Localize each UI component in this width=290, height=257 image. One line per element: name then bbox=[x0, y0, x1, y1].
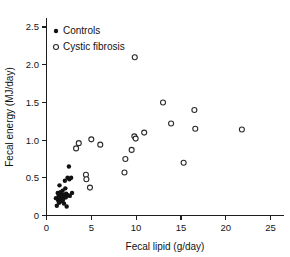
y-tick-label: 0 bbox=[34, 210, 39, 221]
data-point bbox=[129, 147, 134, 152]
x-axis-ticks: 0510152025 bbox=[44, 216, 276, 233]
data-point bbox=[57, 183, 61, 187]
data-point bbox=[181, 160, 186, 165]
y-tick-label: 0.5 bbox=[26, 172, 39, 183]
data-point bbox=[123, 156, 128, 161]
legend-marker-filled-circle-icon bbox=[54, 29, 58, 33]
series-cystic-fibrosis-points bbox=[74, 55, 245, 190]
y-axis-title: Fecal energy (MJ/day) bbox=[4, 67, 15, 166]
data-point bbox=[69, 176, 73, 180]
y-axis-ticks: 00.51.01.52.02.5 bbox=[26, 21, 47, 220]
legend-item-label: Controls bbox=[63, 25, 100, 36]
data-point bbox=[193, 126, 198, 131]
x-tick-label: 10 bbox=[131, 222, 142, 233]
x-tick-label: 15 bbox=[176, 222, 187, 233]
y-tick-label: 2.0 bbox=[26, 59, 39, 70]
data-point bbox=[122, 170, 127, 175]
data-point bbox=[192, 107, 197, 112]
data-point bbox=[64, 204, 68, 208]
data-point bbox=[70, 191, 74, 195]
data-point bbox=[74, 146, 79, 151]
data-point bbox=[239, 127, 244, 132]
data-point bbox=[161, 100, 166, 105]
data-point bbox=[63, 186, 67, 190]
legend-item-label: Cystic fibrosis bbox=[63, 41, 125, 52]
scatter-plot-figure: 00.51.01.52.02.5 0510152025 Fecal energy… bbox=[0, 0, 290, 257]
chart-canvas: 00.51.01.52.02.5 0510152025 Fecal energy… bbox=[0, 0, 290, 257]
data-point bbox=[98, 142, 103, 147]
data-point bbox=[87, 185, 92, 190]
x-tick-label: 25 bbox=[265, 222, 276, 233]
data-point bbox=[132, 55, 137, 60]
series-controls-points bbox=[54, 164, 75, 208]
legend-marker-open-circle-icon bbox=[54, 45, 59, 50]
data-point bbox=[142, 130, 147, 135]
y-tick-label: 2.5 bbox=[26, 21, 39, 32]
y-tick-label: 1.5 bbox=[26, 97, 39, 108]
data-point bbox=[76, 141, 81, 146]
data-point bbox=[133, 136, 138, 141]
x-axis-title: Fecal lipid (g/day) bbox=[126, 241, 205, 252]
data-point bbox=[89, 137, 94, 142]
x-tick-label: 20 bbox=[220, 222, 231, 233]
data-point bbox=[84, 177, 89, 182]
legend: ControlsCystic fibrosis bbox=[54, 25, 125, 52]
data-point bbox=[67, 164, 71, 168]
data-point bbox=[169, 121, 174, 126]
x-tick-label: 0 bbox=[44, 222, 49, 233]
y-tick-label: 1.0 bbox=[26, 135, 39, 146]
x-tick-label: 5 bbox=[89, 222, 94, 233]
